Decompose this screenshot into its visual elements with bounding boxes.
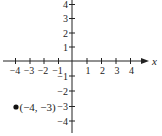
point-label: (−4, −3) [20,101,57,114]
data-point [13,104,18,109]
x-tick-label: 1 [86,65,91,76]
x-tick-label: −3 [24,65,35,76]
x-axis-label: x [151,55,157,67]
y-tick-label: −3 [57,101,68,112]
y-tick-label: −1 [57,71,68,82]
y-tick-label: −4 [57,116,68,127]
x-tick-label: 2 [100,65,105,76]
x-tick-label: 4 [129,65,134,76]
coordinate-plane: x −4 −3 −2 −1 1 2 3 4 4 3 2 1 −1 [0,0,162,136]
y-tick-label: 2 [63,28,68,39]
x-axis-arrow-icon [141,58,149,64]
y-tick-label: 1 [63,42,68,53]
x-tick-label: −2 [38,65,49,76]
y-tick-label: 4 [63,0,68,10]
y-tick-label: 3 [63,13,68,24]
x-tick-label: −4 [10,65,21,76]
y-tick-label: −2 [57,86,68,97]
x-tick-label: 3 [115,65,120,76]
